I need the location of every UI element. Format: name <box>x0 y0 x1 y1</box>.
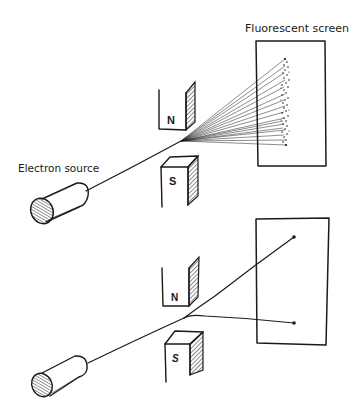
lower-beam <box>184 315 294 323</box>
dot-band <box>280 58 289 146</box>
electron-source-top <box>27 183 89 227</box>
fan-of-rays <box>181 59 286 145</box>
top-panel: Fluorescent screen <box>18 22 349 227</box>
north-pole-label-bottom: N <box>171 292 178 303</box>
north-magnet-top: N <box>159 82 195 130</box>
north-pole-label-top: N <box>167 114 175 126</box>
bottom-panel: N S <box>28 218 329 400</box>
incoming-beam-top <box>86 141 181 191</box>
incoming-beam-bottom <box>88 318 184 363</box>
south-pole-label-top: S <box>169 175 176 187</box>
electron-source-bottom <box>28 356 87 400</box>
fluorescent-screen-label: Fluorescent screen <box>245 22 349 35</box>
north-magnet-bottom: N <box>162 257 199 306</box>
electron-source-label: Electron source <box>18 162 99 174</box>
south-magnet-top: S <box>161 156 198 207</box>
electron-deflection-diagram: Fluorescent screen <box>0 0 364 414</box>
south-magnet-bottom: S <box>165 331 203 382</box>
south-pole-label-bottom: S <box>172 353 179 364</box>
fluorescent-screen <box>256 41 326 166</box>
upper-beam <box>184 237 294 318</box>
